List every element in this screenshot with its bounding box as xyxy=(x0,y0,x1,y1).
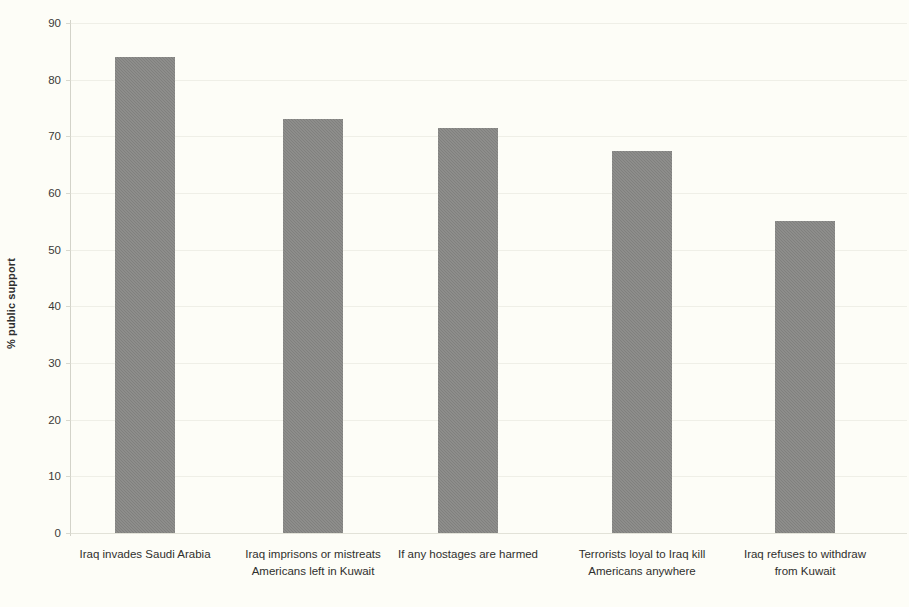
bar-2 xyxy=(283,119,343,533)
gridline-0 xyxy=(71,533,907,534)
y-tick-label-0: 0 xyxy=(55,527,61,539)
y-tick-mark-10 xyxy=(66,476,71,477)
y-tick-label-70: 70 xyxy=(48,130,61,142)
y-tick-label-50: 50 xyxy=(48,244,61,256)
bar-3 xyxy=(438,128,498,533)
y-axis-title: % public support xyxy=(0,0,40,607)
y-tick-label-20: 20 xyxy=(48,414,61,426)
y-tick-mark-80 xyxy=(66,80,71,81)
y-tick-label-60: 60 xyxy=(48,187,61,199)
bar-chart: % public support 9080706050403020100 Ira… xyxy=(0,0,909,607)
gridline-80 xyxy=(71,80,907,81)
y-tick-label-40: 40 xyxy=(48,300,61,312)
y-tick-mark-30 xyxy=(66,363,71,364)
bar-1 xyxy=(115,57,175,533)
bar-5 xyxy=(775,221,835,533)
y-tick-label-90: 90 xyxy=(48,17,61,29)
y-tick-mark-70 xyxy=(66,136,71,137)
x-axis-label-5: Iraq refuses to withdraw from Kuwait xyxy=(710,546,900,580)
y-tick-mark-0 xyxy=(66,533,71,534)
y-tick-mark-90 xyxy=(66,23,71,24)
x-axis-label-1: Iraq invades Saudi Arabia xyxy=(50,546,240,563)
x-axis-label-4: Terrorists loyal to Iraq kill Americans … xyxy=(547,546,737,580)
bar-4 xyxy=(612,151,672,534)
y-tick-mark-60 xyxy=(66,193,71,194)
plot-area: 9080706050403020100 xyxy=(71,23,907,533)
y-tick-label-10: 10 xyxy=(48,470,61,482)
y-tick-mark-20 xyxy=(66,420,71,421)
y-tick-label-80: 80 xyxy=(48,74,61,86)
gridline-90 xyxy=(71,23,907,24)
y-tick-mark-50 xyxy=(66,250,71,251)
x-axis-label-3: If any hostages are harmed xyxy=(373,546,563,563)
y-tick-label-30: 30 xyxy=(48,357,61,369)
y-tick-mark-40 xyxy=(66,306,71,307)
